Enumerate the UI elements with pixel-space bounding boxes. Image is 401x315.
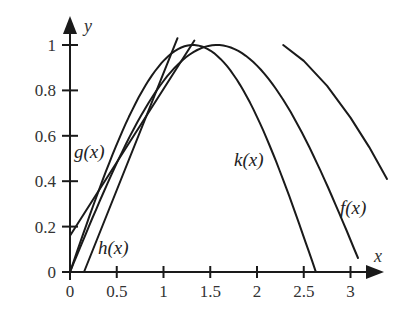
y-axis-label: y [82,16,92,36]
y-tick-label: 0.2 [35,218,56,237]
label-f: f(x) [340,197,366,219]
x-tick-label: 1 [159,282,168,301]
y-tick-label: 0 [48,263,57,282]
label-g: g(x) [74,141,105,163]
x-tick-label: 2.5 [293,282,314,301]
curve-gx [70,41,194,236]
x-tick-label: 0.5 [106,282,127,301]
x-axis-label: x [373,246,382,266]
x-tick-label: 1.5 [200,282,221,301]
axis-ticks: 00.511.522.5300.20.40.60.81 [35,36,355,301]
y-tick-label: 0.6 [35,127,56,146]
x-tick-label: 0 [66,282,75,301]
curve-unlabeled [283,45,387,179]
x-axis-arrow-icon [366,265,384,279]
y-axis-arrow-icon [63,16,77,34]
label-k: k(x) [234,149,264,171]
y-tick-label: 0.8 [35,81,56,100]
y-tick-label: 0.4 [35,172,57,191]
x-tick-label: 3 [346,282,355,301]
x-tick-label: 2 [253,282,262,301]
y-tick-label: 1 [48,36,57,55]
label-h: h(x) [98,237,129,259]
chart: 00.511.522.5300.20.40.60.81 x y g(x) h(x… [0,0,401,315]
